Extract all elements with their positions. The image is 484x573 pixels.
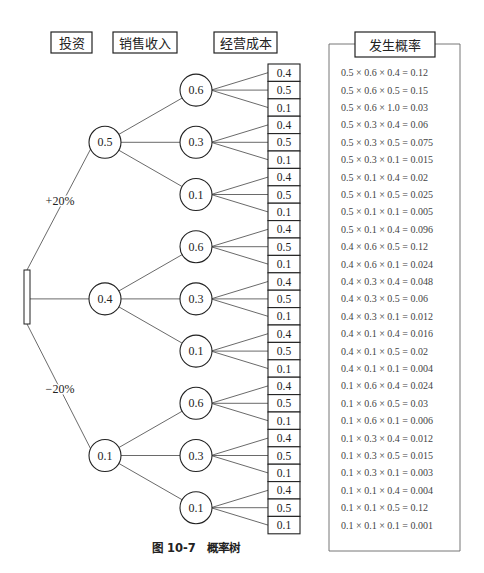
probability-formula: 0.1 × 0.3 × 0.1 = 0.003 xyxy=(341,467,433,478)
leaf-value: 0.5 xyxy=(277,345,292,357)
cost-node-label: 0.3 xyxy=(189,135,204,149)
cost-node-label: 0.6 xyxy=(189,240,204,254)
branch-label-up: +20% xyxy=(46,194,75,208)
leaf-value: 0.4 xyxy=(277,432,292,444)
cost-node-label: 0.3 xyxy=(189,292,204,306)
probability-formula: 0.4 × 0.3 × 0.4 = 0.048 xyxy=(341,276,433,287)
figure-caption: 图 10-7 概率树 xyxy=(152,541,241,555)
leaf-value: 0.4 xyxy=(277,276,292,288)
root-decision-node xyxy=(24,270,30,324)
leaf-value: 0.4 xyxy=(277,223,292,235)
leaf-value: 0.5 xyxy=(277,502,292,514)
cost-node-label: 0.1 xyxy=(189,501,204,515)
probability-formula: 0.5 × 0.1 × 0.4 = 0.02 xyxy=(341,172,428,183)
leaf-value: 0.5 xyxy=(277,189,292,201)
leaf-value: 0.1 xyxy=(277,415,292,427)
probability-formula: 0.4 × 0.6 × 0.5 = 0.12 xyxy=(341,241,428,252)
header-operating-cost-label: 经营成本 xyxy=(220,36,272,51)
probability-formula: 0.5 × 0.1 × 0.1 = 0.005 xyxy=(341,206,433,217)
probability-formula: 0.5 × 0.6 × 1.0 = 0.03 xyxy=(341,102,428,113)
probability-formula: 0.4 × 0.6 × 0.1 = 0.024 xyxy=(341,259,433,270)
leaf-value: 0.5 xyxy=(277,450,292,462)
leaf-value: 0.1 xyxy=(277,519,292,531)
leaf-value: 0.1 xyxy=(277,206,292,218)
leaf-value: 0.5 xyxy=(277,397,292,409)
revenue-node-label: 0.4 xyxy=(98,292,113,306)
level2-nodes: 0.60.30.10.60.30.10.60.30.1 xyxy=(180,74,212,524)
leaf-value: 0.1 xyxy=(277,154,292,166)
cost-node-label: 0.1 xyxy=(189,344,204,358)
probability-formula: 0.1 × 0.1 × 0.1 = 0.001 xyxy=(341,520,433,531)
probability-formula: 0.4 × 0.3 × 0.5 = 0.06 xyxy=(341,293,428,304)
probability-formula: 0.5 × 0.3 × 0.5 = 0.075 xyxy=(341,137,433,148)
probability-formula: 0.4 × 0.1 × 0.4 = 0.016 xyxy=(341,328,433,339)
tree-edges xyxy=(27,73,268,525)
probability-formula: 0.5 × 0.3 × 0.1 = 0.015 xyxy=(341,154,433,165)
probability-formula: 0.1 × 0.3 × 0.5 = 0.015 xyxy=(341,450,433,461)
header-sales-revenue-label: 销售收入 xyxy=(119,36,171,51)
leaf-value: 0.1 xyxy=(277,310,292,322)
probability-formula: 0.5 × 0.6 × 0.4 = 0.12 xyxy=(341,67,428,78)
probability-formula: 0.1 × 0.6 × 0.1 = 0.006 xyxy=(341,415,433,426)
leaf-value: 0.5 xyxy=(277,84,292,96)
leaf-value: 0.4 xyxy=(277,328,292,340)
header-sales-revenue: 销售收入 xyxy=(113,32,177,53)
probability-formula: 0.1 × 0.6 × 0.4 = 0.024 xyxy=(341,380,433,391)
probability-formula: 0.5 × 0.1 × 0.4 = 0.096 xyxy=(341,224,433,235)
probability-formula: 0.5 × 0.3 × 0.4 = 0.06 xyxy=(341,119,428,130)
level1-nodes: 0.50.40.1 xyxy=(89,126,121,471)
branch-label-down: −20% xyxy=(46,382,75,396)
leaf-value: 0.1 xyxy=(277,258,292,270)
leaf-value: 0.4 xyxy=(277,67,292,79)
header-investment: 投资 xyxy=(51,32,92,53)
revenue-node-label: 0.1 xyxy=(98,449,113,463)
probability-panel: 发生概率 0.5 × 0.6 × 0.4 = 0.120.5 × 0.6 × 0… xyxy=(329,32,460,551)
header-operating-cost: 经营成本 xyxy=(214,32,277,53)
leaf-value: 0.4 xyxy=(277,484,292,496)
probability-formula: 0.5 × 0.6 × 0.5 = 0.15 xyxy=(341,85,428,96)
probability-formula: 0.1 × 0.6 × 0.5 = 0.03 xyxy=(341,398,428,409)
probability-formula: 0.5 × 0.1 × 0.5 = 0.025 xyxy=(341,189,433,200)
probability-formula: 0.4 × 0.1 × 0.1 = 0.004 xyxy=(341,363,433,374)
leaf-column: 0.40.50.10.40.50.10.40.50.10.40.50.10.40… xyxy=(268,64,300,534)
leaf-value: 0.4 xyxy=(277,380,292,392)
probability-tree-figure: 投资 销售收入 经营成本 发生概率 0.5 × 0.6 × 0.4 = 0.12… xyxy=(0,0,484,573)
probability-formula: 0.4 × 0.1 × 0.5 = 0.02 xyxy=(341,346,428,357)
probability-panel-title: 发生概率 xyxy=(369,38,421,53)
leaf-value: 0.1 xyxy=(277,467,292,479)
cost-node-label: 0.6 xyxy=(189,83,204,97)
leaf-value: 0.1 xyxy=(277,363,292,375)
probability-formula: 0.4 × 0.3 × 0.1 = 0.012 xyxy=(341,311,433,322)
probability-formula: 0.1 × 0.1 × 0.5 = 0.12 xyxy=(341,502,428,513)
leaf-value: 0.5 xyxy=(277,293,292,305)
formula-list: 0.5 × 0.6 × 0.4 = 0.120.5 × 0.6 × 0.5 = … xyxy=(341,67,433,530)
leaf-value: 0.4 xyxy=(277,171,292,183)
leaf-value: 0.5 xyxy=(277,241,292,253)
leaf-value: 0.4 xyxy=(277,119,292,131)
probability-formula: 0.1 × 0.3 × 0.4 = 0.012 xyxy=(341,433,433,444)
leaf-value: 0.5 xyxy=(277,136,292,148)
header-investment-label: 投资 xyxy=(59,36,85,51)
cost-node-label: 0.3 xyxy=(189,449,204,463)
leaf-value: 0.1 xyxy=(277,102,292,114)
probability-formula: 0.1 × 0.1 × 0.4 = 0.004 xyxy=(341,485,433,496)
revenue-node-label: 0.5 xyxy=(98,135,113,149)
cost-node-label: 0.6 xyxy=(189,396,204,410)
cost-node-label: 0.1 xyxy=(189,188,204,202)
